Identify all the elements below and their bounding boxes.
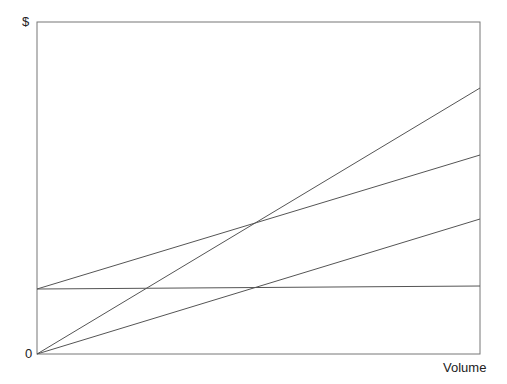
x-axis-label: Volume [443, 360, 486, 375]
origin-label: 0 [25, 346, 32, 361]
revenue-line [37, 88, 480, 354]
total-cost-line [37, 155, 480, 289]
y-axis-label: $ [22, 14, 29, 29]
plot-frame [37, 22, 480, 354]
series-lines [37, 88, 480, 354]
break-even-chart [0, 0, 507, 384]
